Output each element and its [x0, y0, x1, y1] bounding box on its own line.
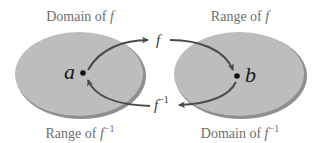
- function-inverse-diagram: Domain of f Range of f a b f f−1 Range o…: [0, 0, 320, 143]
- point-a-dot: [80, 70, 86, 76]
- range-of-f-inverse-label: Range of f−1: [46, 123, 115, 141]
- point-b-dot: [234, 73, 240, 79]
- f-inverse-arrow-label: f−1: [154, 94, 169, 113]
- point-b-label: b: [245, 62, 256, 87]
- f-arrow-label: f: [156, 32, 162, 48]
- point-a-label: a: [64, 59, 75, 84]
- range-of-f-label: Range of f: [211, 9, 271, 24]
- domain-set-ellipse: [15, 32, 146, 119]
- domain-of-f-label: Domain of f: [46, 9, 116, 24]
- domain-of-f-inverse-label: Domain of f−1: [201, 123, 279, 141]
- range-set-ellipse: [174, 32, 307, 119]
